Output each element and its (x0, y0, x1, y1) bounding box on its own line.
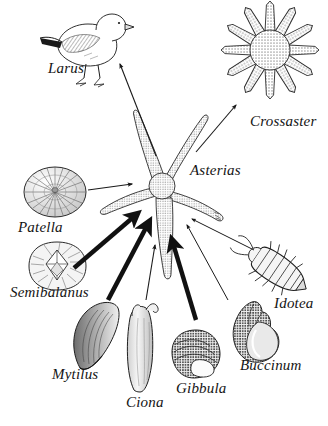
topshell-icon (172, 330, 220, 378)
link-idotea-to-asterias (192, 219, 254, 250)
sea-squirt-icon (127, 304, 158, 392)
label-idotea: Idotea (274, 295, 314, 312)
limpet-shell-icon (24, 167, 86, 217)
label-buccinum: Buccinum (240, 357, 302, 374)
whelk-shell-icon (233, 302, 279, 363)
label-mytilus: Mytilus (52, 366, 98, 383)
label-ciona: Ciona (126, 394, 164, 411)
link-gibbula-to-asterias (172, 240, 196, 320)
link-ciona-to-asterias (146, 245, 155, 300)
label-larus: Larus (48, 60, 84, 77)
label-patella: Patella (18, 219, 63, 236)
link-patella-to-asterias (88, 184, 132, 190)
label-gibbula: Gibbula (176, 380, 227, 397)
link-buccinum-to-asterias (187, 225, 228, 300)
label-crossaster: Crossaster (250, 113, 316, 130)
label-asterias: Asterias (190, 162, 241, 179)
sun-star-icon (221, 1, 319, 99)
link-asterias-to-larus (120, 64, 156, 156)
label-semibalanus: Semibalanus (10, 284, 89, 301)
starfish-icon (100, 110, 223, 279)
mussel-icon (74, 302, 119, 369)
